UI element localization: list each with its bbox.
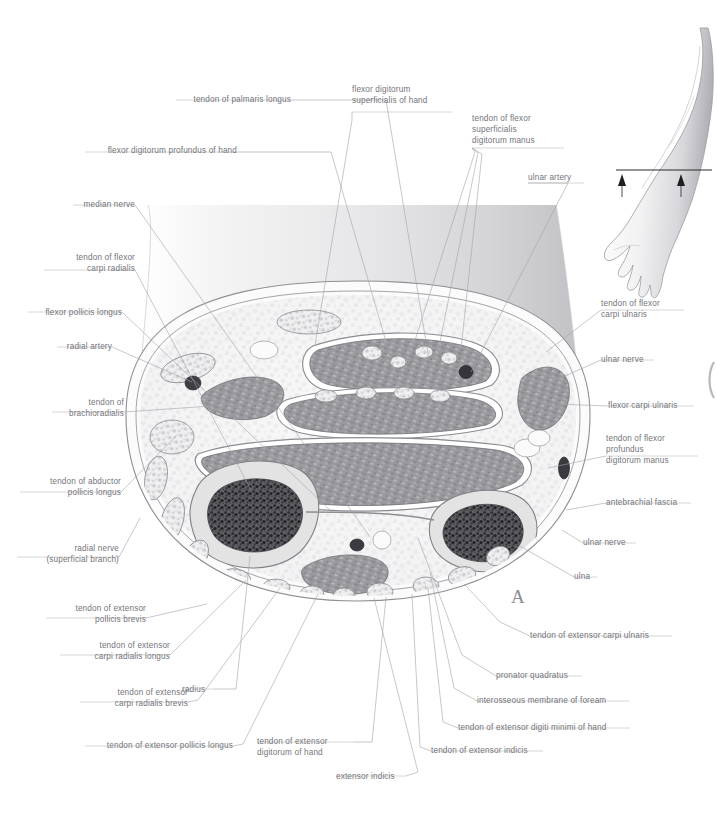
label-tendon-of-flexor-profundus-digitorum-manus: tendon of flexorprofundusdigitorum manus — [606, 433, 698, 467]
section-arrow-left — [618, 174, 626, 197]
label-radius: radius — [182, 684, 214, 695]
label-tendon-of-palmaris-longus: tendon of palmaris longus — [176, 94, 291, 105]
label-extensor-indicis: extensor indicis — [336, 771, 406, 782]
label-tendon-of-extensor-carpi-radialis-brevis: tendon of extensorcarpi radialis brevis — [80, 687, 188, 709]
label-line: carpi radialis — [44, 263, 135, 274]
bone-radius — [190, 461, 319, 568]
label-line: tendon of extensor digiti minimi of hand — [458, 722, 630, 733]
label-line: tendon of flexor — [606, 433, 698, 444]
label-tendon-of-brachioradialis: tendon ofbrachioradialis — [52, 397, 124, 419]
label-radial-artery: radial artery — [57, 341, 112, 352]
label-line: tendon of extensor — [60, 640, 170, 651]
label-line: ulnar nerve — [583, 537, 636, 548]
label-tendon-of-extensor-digiti-minimi-of-hand: tendon of extensor digiti minimi of hand — [458, 722, 630, 733]
label-line: tendon of flexor — [601, 298, 684, 309]
label-line: tendon of palmaris longus — [176, 94, 291, 105]
label-ulnar-nerve-upper: ulnar nerve — [601, 354, 654, 365]
label-line: ulna — [574, 571, 597, 582]
cross-section-body — [126, 281, 590, 612]
adjacent-figure-edge — [710, 362, 715, 398]
label-line: tendon of — [52, 397, 124, 408]
label-line: ulnar nerve — [601, 354, 654, 365]
label-line: pollicis brevis — [46, 614, 146, 625]
label-ulnar-nerve-lower: ulnar nerve — [583, 537, 636, 548]
label-tendon-of-extensor-carpi-ulnaris: tendon of extensor carpi ulnaris — [530, 630, 672, 641]
label-tendon-of-extensor-pollicis-longus: tendon of extensor pollicis longus — [85, 740, 233, 751]
radial-artery-lumen — [185, 376, 201, 390]
anterior-interosseous-vessel — [350, 539, 364, 551]
label-line: median nerve — [73, 199, 135, 210]
label-line: tendon of extensor indicis — [431, 745, 543, 756]
label-line: profundus — [606, 444, 698, 455]
label-tendon-of-extensor-pollicis-brevis: tendon of extensorpollicis brevis — [46, 603, 146, 625]
label-flexor-digitorum-profundus-of-hand: flexor digitorum profundus of hand — [85, 145, 237, 156]
muscle-flexor-digitorum-profundus — [277, 387, 503, 439]
label-pronator-quadratus: pronator quadratus — [496, 670, 582, 681]
label-line: ulnar artery — [528, 172, 584, 183]
label-tendon-of-extensor-indicis: tendon of extensor indicis — [431, 745, 543, 756]
label-antebrachial-fascia: antebrachial fascia — [606, 497, 691, 508]
label-line: digitorum manus — [472, 135, 564, 146]
label-tendon-of-extensor-digitorum-of-hand: tendon of extensordigitorum of hand — [257, 736, 354, 758]
label-ulna: ulna — [574, 571, 597, 582]
label-tendon-of-flexor-carpi-radialis: tendon of flexorcarpi radialis — [44, 252, 135, 274]
label-line: flexor digitorum profundus of hand — [85, 145, 237, 156]
label-line: carpi radialis longus — [60, 651, 170, 662]
label-median-nerve: median nerve — [73, 199, 135, 210]
label-interosseous-membrane-of-foream: interosseous membrane of foream — [477, 695, 629, 706]
label-line: brachioradialis — [52, 408, 124, 419]
label-tendon-of-abductor-pollicis-longus: tendon of abductorpollicis longus — [20, 476, 121, 498]
label-line: pollicis longus — [20, 487, 121, 498]
label-line: tendon of flexor — [44, 252, 135, 263]
label-line: pronator quadratus — [496, 670, 582, 681]
label-tendon-of-flexor-carpi-ulnaris: tendon of flexorcarpi ulnaris — [601, 298, 684, 320]
label-line: (superficial branch) — [17, 554, 119, 565]
label-line: superficialis — [472, 124, 564, 135]
label-flexor-pollicis-longus: flexor pollicis longus — [28, 307, 122, 318]
arm-orientation-diagram — [604, 28, 713, 298]
bone-ulna — [429, 490, 537, 572]
label-radial-nerve-superficial-branch: radial nerve(superficial branch) — [17, 543, 119, 565]
dorsal-vein — [197, 596, 222, 611]
label-flexor-digitorum-superficialis-of-hand: flexor digitorumsuperficialis of hand — [352, 84, 452, 106]
label-line: antebrachial fascia — [606, 497, 691, 508]
label-line: radius — [182, 684, 214, 695]
label-line: carpi ulnaris — [601, 309, 684, 320]
label-line: digitorum of hand — [257, 747, 354, 758]
label-tendon-of-extensor-carpi-radialis-longus: tendon of extensorcarpi radialis longus — [60, 640, 170, 662]
label-line: flexor carpi ulnaris — [608, 400, 694, 411]
label-line: extensor indicis — [336, 771, 406, 782]
label-line: tendon of extensor — [257, 736, 354, 747]
label-line: radial artery — [57, 341, 112, 352]
panel-letter: A — [511, 586, 525, 608]
label-line: flexor pollicis longus — [28, 307, 122, 318]
label-line: carpi radialis brevis — [80, 698, 188, 709]
label-line: digitorum manus — [606, 455, 698, 466]
ulnar-nerve-lower-lumen — [559, 457, 570, 479]
label-line: tendon of extensor pollicis longus — [85, 740, 233, 751]
label-line: tendon of extensor — [80, 687, 188, 698]
label-line: superficialis of hand — [352, 95, 452, 106]
label-line: tendon of extensor carpi ulnaris — [530, 630, 672, 641]
label-line: tendon of extensor — [46, 603, 146, 614]
label-tendon-of-flexor-superficialis-digitorum-manus: tendon of flexorsuperficialisdigitorum m… — [472, 113, 564, 147]
label-line: tendon of abductor — [20, 476, 121, 487]
label-ulnar-artery: ulnar artery — [528, 172, 584, 183]
label-line: radial nerve — [17, 543, 119, 554]
label-line: tendon of flexor — [472, 113, 564, 124]
label-line: interosseous membrane of foream — [477, 695, 629, 706]
ulnar-artery-lumen — [459, 366, 473, 379]
label-line: flexor digitorum — [352, 84, 452, 95]
figure-canvas: tendon of palmaris longusflexor digitoru… — [0, 0, 717, 822]
label-flexor-carpi-ulnaris: flexor carpi ulnaris — [608, 400, 694, 411]
